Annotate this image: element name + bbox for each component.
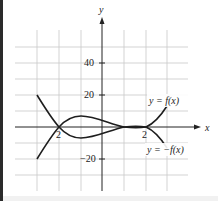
y-axis-arrow-icon (100, 17, 105, 24)
tick-label-40: 40 (84, 57, 94, 68)
tick-label-x-2: 2 (142, 129, 147, 140)
tick-label-20: 20 (84, 89, 94, 100)
graph: y x 40 20 −20 2 2 y = f(x) y = −f(x) (0, 0, 218, 201)
y-axis-label: y (98, 4, 104, 15)
tick-label-minus20: −20 (80, 153, 96, 164)
x-axis-arrow-icon (194, 125, 201, 130)
curve-neg-f-label: y = −f(x) (146, 144, 184, 156)
x-axis-label: x (204, 122, 210, 133)
curve-f-label: y = f(x) (148, 95, 180, 107)
